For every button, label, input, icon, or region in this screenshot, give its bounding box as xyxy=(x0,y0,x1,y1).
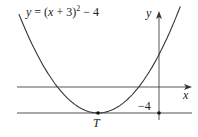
y-axis-label: y xyxy=(145,6,152,20)
equation-label: y = (x + 3)2 − 4 xyxy=(25,4,99,19)
y-axis-point-minus-4 xyxy=(157,111,161,115)
parabola-curve xyxy=(19,6,180,113)
parabola-diagram: y = (x + 3)2 − 4 y x −4 T xyxy=(0,0,198,137)
minus-4-label: −4 xyxy=(138,99,151,113)
x-axis-label: x xyxy=(182,88,189,102)
vertex-label-T: T xyxy=(93,116,101,130)
vertex-point-T xyxy=(96,111,100,115)
